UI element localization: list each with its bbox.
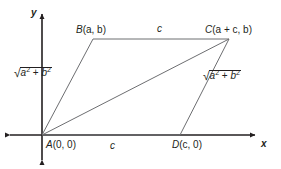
radical-body-left: a2 + b2 [20, 67, 52, 78]
vertex-d-coords: (c, 0) [179, 139, 202, 150]
vertex-label-b: B(a, b) [76, 25, 106, 35]
radical-left-plus: + [30, 67, 41, 78]
radical-right-plus: + [219, 70, 230, 81]
y-axis-label: y [31, 8, 37, 18]
x-axis-label: x [261, 139, 267, 149]
vertex-label-d: D(c, 0) [172, 140, 202, 150]
side-label-right-radical: √a2 + b2 [203, 70, 241, 82]
side-label-top-c: c [157, 24, 162, 34]
radical-left: √a2 + b2 [14, 67, 52, 79]
parallelogram-figure: y x B(a, b) C(a + c, b) A(0, 0) D(c, 0) … [0, 0, 281, 169]
vertex-a-coords: (0, 0) [53, 139, 76, 150]
segment-ac-diagonal [42, 39, 229, 135]
side-label-bottom-c: c [110, 141, 115, 151]
vertex-c-coords: (a + c, b) [212, 24, 252, 35]
segment-cd [180, 39, 229, 135]
radical-right: √a2 + b2 [203, 70, 241, 82]
radical-left-exp-b: 2 [47, 66, 51, 73]
vertex-b-coords: (a, b) [83, 24, 106, 35]
radical-right-exp-b: 2 [236, 69, 240, 76]
vertex-a-name: A [46, 139, 53, 150]
vertex-b-name: B [76, 24, 83, 35]
vertex-label-c: C(a + c, b) [205, 25, 252, 35]
side-label-left-radical: √a2 + b2 [14, 67, 52, 79]
radical-body-right: a2 + b2 [209, 70, 241, 81]
segment-ab [42, 39, 93, 135]
vertex-label-a: A(0, 0) [46, 140, 76, 150]
